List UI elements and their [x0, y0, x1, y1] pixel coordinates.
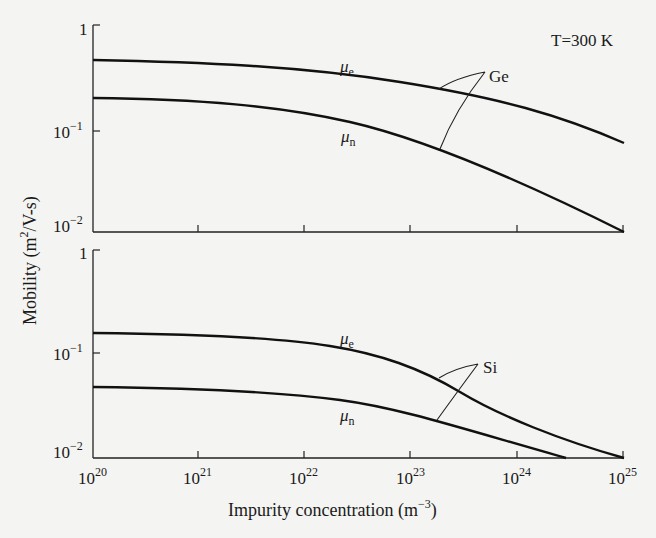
si-material-label: Si	[483, 358, 497, 377]
ge-y-tick-label-0.1: 10−1	[53, 119, 83, 142]
ge-mu-e-label: μe	[339, 57, 354, 79]
x-tick-label: 1023	[396, 465, 425, 488]
x-tick-label: 1020	[78, 465, 107, 488]
x-tick-label: 1025	[608, 465, 637, 488]
si-mu-n-label: μn	[339, 406, 355, 428]
temperature-annotation: T=300 K	[551, 31, 614, 50]
x-tick-labels: 1020 1021 1022 1023 1024 1025	[78, 465, 637, 488]
ge-mu-e-curve	[93, 60, 624, 143]
si-panel: 1 10−1 10−2 μe μn Si	[53, 244, 624, 462]
ge-mu-n-curve	[93, 98, 624, 232]
ge-leader-lines	[439, 72, 485, 149]
x-axis-title: Impurity concentration (m−3)	[228, 497, 437, 521]
y-axis-title: Mobility (m2/V-s)	[17, 196, 41, 325]
mobility-chart: 1 10−1 10−2 μe μn Ge T=300 K 1 10−1 10−2…	[0, 0, 656, 538]
x-tick-label: 1022	[289, 465, 318, 488]
x-tick-label: 1024	[502, 465, 531, 488]
ge-y-tick-label-1: 1	[79, 20, 88, 39]
x-tick-label: 1021	[183, 465, 212, 488]
si-mu-e-label: μe	[339, 329, 354, 351]
ge-y-tick-label-0.01: 10−2	[53, 213, 83, 236]
ge-material-label: Ge	[489, 67, 509, 86]
ge-mu-n-label: μn	[340, 127, 356, 149]
si-y-tick-label-0.01: 10−2	[53, 439, 83, 462]
si-y-tick-label-1: 1	[79, 244, 88, 263]
ge-panel: 1 10−1 10−2 μe μn Ge T=300 K	[53, 20, 624, 236]
si-mu-e-curve	[93, 333, 624, 458]
si-y-tick-label-0.1: 10−1	[53, 341, 83, 364]
si-leader-lines	[437, 364, 478, 420]
si-mu-n-curve	[93, 387, 566, 458]
